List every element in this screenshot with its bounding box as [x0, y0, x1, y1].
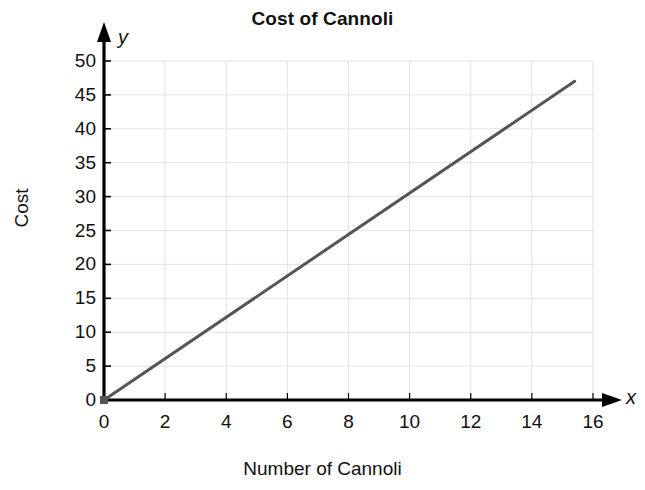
y-axis-tick-label: 20	[50, 254, 96, 273]
y-axis-tick-label: 45	[50, 85, 96, 104]
x-axis-tick-label: 12	[451, 412, 491, 431]
x-axis-tick-label: 6	[267, 412, 307, 431]
y-axis-tick-label: 5	[50, 356, 96, 375]
y-axis-tick-label: 0	[50, 390, 96, 409]
x-axis-tick-label: 4	[206, 412, 246, 431]
x-axis-tick-label: 8	[329, 412, 369, 431]
y-axis-tick-label: 35	[50, 153, 96, 172]
y-axis-arrow-icon	[97, 22, 111, 42]
x-axis-arrow-icon	[602, 393, 622, 407]
x-axis-tick-label: 10	[390, 412, 430, 431]
data-point-markers	[100, 396, 108, 404]
y-axis-tick-label: 10	[50, 322, 96, 341]
x-axis-tick-label: 2	[145, 412, 185, 431]
axis-lines	[97, 22, 622, 407]
y-axis-tick-label: 30	[50, 187, 96, 206]
x-axis-tick-label: 16	[573, 412, 613, 431]
origin-point-marker	[100, 396, 108, 404]
y-axis-tick-label: 15	[50, 288, 96, 307]
y-axis-tick-label: 40	[50, 119, 96, 138]
x-axis-tick-label: 14	[512, 412, 552, 431]
y-axis-tick-label: 25	[50, 221, 96, 240]
chart-figure: Cost of Cannoli Number of Cannoli Cost y…	[0, 0, 645, 490]
y-axis-tick-label: 50	[50, 51, 96, 70]
x-axis-tick-label: 0	[84, 412, 124, 431]
